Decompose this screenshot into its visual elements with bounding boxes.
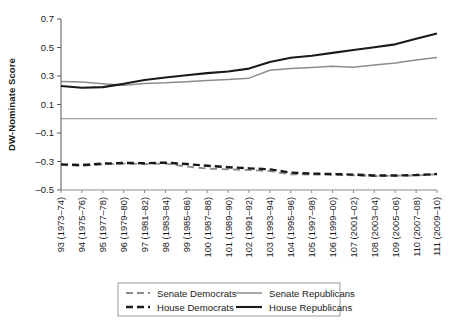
series-line-senate-republicans: [61, 57, 437, 85]
x-tick-label: 100 (1987–88): [203, 197, 213, 257]
x-tick-label: 101 (1989–90): [224, 197, 234, 257]
y-tick-label: –0.1: [36, 127, 55, 138]
x-tick-label: 107 (2001–02): [349, 197, 359, 257]
x-tick-label: 93 (1973–74): [56, 197, 66, 252]
x-tick-label: 96 (1979–80): [119, 197, 129, 252]
chart-figure: 0.70.50.30.1–0.1–0.3–0.5DW-Nominate Scor…: [0, 0, 453, 329]
x-tick-label: 102 (1991–92): [244, 197, 254, 257]
x-tick-label: 111 (2009–10): [432, 197, 442, 256]
x-tick-label: 105 (1997–98): [307, 197, 317, 257]
y-tick-label: 0.1: [41, 99, 54, 110]
y-axis-title: DW-Nominate Score: [6, 58, 17, 151]
x-tick-label: 110 (2007–08): [412, 197, 422, 257]
x-tick-label: 95 (1977–78): [98, 197, 108, 252]
dw-nominate-line-chart: 0.70.50.30.1–0.1–0.3–0.5DW-Nominate Scor…: [0, 0, 453, 329]
legend-label: Senate Democrats: [157, 288, 237, 299]
x-tick-label: 94 (1975–76): [77, 197, 87, 252]
y-tick-label: 0.5: [41, 42, 54, 53]
x-tick-label: 106 (1999–00): [328, 197, 338, 257]
x-tick-label: 97 (1981–82): [140, 197, 150, 252]
y-tick-label: 0.7: [41, 13, 54, 24]
x-tick-label: 109 (2005–06): [391, 197, 401, 257]
y-tick-label: –0.3: [36, 156, 55, 167]
x-tick-label: 104 (1995–96): [286, 197, 296, 257]
y-tick-label: 0.3: [41, 70, 54, 81]
x-tick-label: 103 (1993–94): [265, 197, 275, 257]
legend-label: House Democrats: [157, 302, 234, 313]
series-line-senate-democrats: [61, 164, 437, 176]
x-tick-label: 99 (1985–86): [182, 197, 192, 252]
legend-label: House Republicans: [269, 302, 352, 313]
x-tick-label: 108 (2003–04): [370, 197, 380, 257]
legend-label: Senate Republicans: [269, 288, 355, 299]
series-line-house-republicans: [61, 34, 437, 88]
series-line-house-democrats: [61, 163, 437, 176]
y-tick-label: –0.5: [36, 184, 55, 195]
x-tick-label: 98 (1983–84): [161, 197, 171, 252]
